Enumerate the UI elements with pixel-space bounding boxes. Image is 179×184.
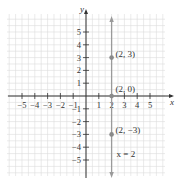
line-down-arrow-icon [109,172,113,178]
axes: xy [8,4,174,178]
y-axis-label: y [79,4,84,14]
y-tick-label: 2 [77,65,81,75]
x-tick-label: −3 [43,100,52,110]
data-point [109,55,114,60]
y-tick-label: 5 [77,27,81,37]
y-axis-arrow-icon [84,9,88,14]
data-point [109,94,114,99]
y-tick-label: −3 [72,129,81,139]
point-label: (2, 3) [116,49,136,59]
x-tick-label: −5 [17,100,26,110]
coordinate-plane-chart: xy −5−4−3−2−112345−5−4−3−2−112345 x = 2(… [0,0,179,184]
line-equation-label: x = 2 [117,149,136,159]
data-point [109,132,114,137]
y-tick-label: −5 [72,155,81,165]
y-tick-label: 3 [77,53,81,63]
y-tick-label: −1 [72,104,81,114]
x-tick-label: 1 [97,100,101,110]
x-tick-label: −2 [56,100,65,110]
y-tick-label: 1 [77,78,81,88]
y-tick-label: −4 [72,142,82,152]
x-tick-label: 4 [135,100,140,110]
point-label: (2, −3) [116,125,141,135]
x-axis-label: x [169,97,174,107]
x-tick-label: −4 [30,100,40,110]
y-tick-label: −2 [72,117,81,127]
x-tick-label: 5 [148,100,152,110]
point-label: (2, 0) [116,84,136,94]
x-tick-label: 3 [122,100,126,110]
